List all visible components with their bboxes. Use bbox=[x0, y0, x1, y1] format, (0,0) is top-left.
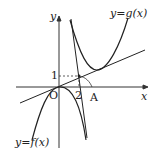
label-f: y=f(x) bbox=[14, 136, 49, 149]
steep-line bbox=[71, 19, 87, 138]
diagram: y y=g(x) 1 O 2 A x y=f(x) bbox=[0, 0, 158, 159]
label-point-A: A bbox=[89, 91, 99, 104]
y-axis-arrow-icon bbox=[57, 16, 61, 21]
tangent-point bbox=[78, 75, 81, 78]
label-y-tick-1: 1 bbox=[51, 69, 58, 82]
label-origin: O bbox=[49, 89, 58, 102]
label-y-axis: y bbox=[49, 10, 57, 23]
label-g: y=g(x) bbox=[109, 7, 147, 20]
x-axis-arrow-icon bbox=[143, 85, 148, 89]
curve-g bbox=[70, 18, 128, 70]
label-x-tick-2: 2 bbox=[75, 89, 82, 102]
label-x-axis: x bbox=[141, 90, 148, 103]
